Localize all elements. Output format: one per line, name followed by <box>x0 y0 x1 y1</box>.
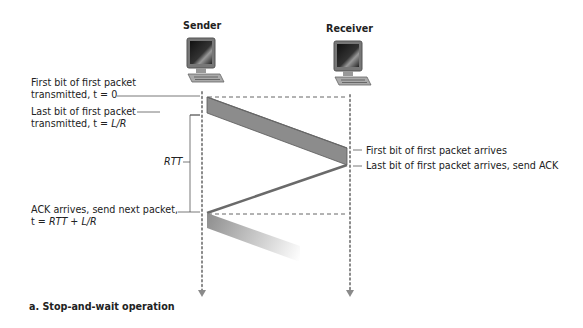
last-bit-transmitted-label: Last bit of first packet transmitted, t … <box>31 106 136 130</box>
sender-label: Sender <box>183 20 221 32</box>
first-bit-transmitted-label: First bit of first packet transmitted, t… <box>31 77 136 101</box>
ack-arrives-label: ACK arrives, send next packet, t = RTT +… <box>31 204 178 228</box>
receiver-computer-icon <box>334 41 371 85</box>
sender-arrowhead <box>198 290 206 297</box>
ack-line <box>207 165 347 213</box>
receiver-label: Receiver <box>326 23 373 35</box>
rtt-label: RTT <box>164 156 182 168</box>
last-bit-arrives-label: Last bit of first packet arrives, send A… <box>366 160 558 172</box>
receiver-arrowhead <box>346 290 354 297</box>
sender-computer-icon <box>187 38 224 82</box>
first-bit-arrives-label: First bit of first packet arrives <box>366 145 507 157</box>
figure-caption: a. Stop-and-wait operation <box>29 301 175 313</box>
rtt-bracket <box>190 115 200 212</box>
next-packet-band <box>207 213 300 262</box>
first-packet-band <box>207 97 347 165</box>
